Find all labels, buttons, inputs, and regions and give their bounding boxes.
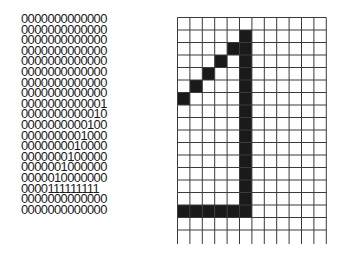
filled-cell xyxy=(240,30,252,43)
pixel-grid xyxy=(177,17,328,245)
filled-cell xyxy=(178,205,190,218)
filled-cell xyxy=(240,68,252,81)
filled-cell xyxy=(240,180,252,193)
filled-cell xyxy=(240,143,252,156)
filled-cell xyxy=(240,105,252,118)
filled-cell xyxy=(190,80,202,93)
filled-cell xyxy=(178,93,190,106)
filled-cell xyxy=(240,130,252,143)
filled-cell xyxy=(240,93,252,106)
filled-cell xyxy=(202,205,214,218)
filled-cell xyxy=(202,68,214,81)
filled-cell xyxy=(215,205,227,218)
filled-cell xyxy=(190,205,202,218)
filled-cell xyxy=(240,205,252,218)
filled-cell xyxy=(240,168,252,181)
bit-row: 0000000000000 xyxy=(21,205,107,216)
filled-cell xyxy=(240,193,252,206)
pixel-grid-canvas xyxy=(177,17,328,245)
filled-cell xyxy=(227,43,239,56)
filled-cell xyxy=(240,118,252,131)
filled-cell xyxy=(240,155,252,168)
filled-cell xyxy=(227,205,239,218)
filled-cell xyxy=(240,80,252,93)
filled-cell xyxy=(240,55,252,68)
binary-bitmap-text: 0000000000000000000000000000000000000000… xyxy=(21,14,107,215)
filled-cell xyxy=(240,43,252,56)
filled-cell xyxy=(215,55,227,68)
